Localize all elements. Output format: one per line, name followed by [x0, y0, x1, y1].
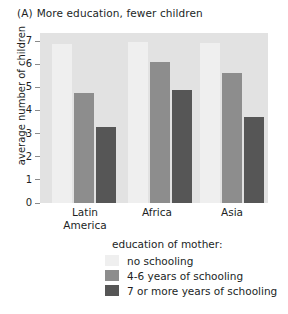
y-tick-0: 0 [26, 197, 40, 209]
chart-legend: education of mother: no schooling 4-6 ye… [105, 238, 288, 298]
plot-inner [40, 41, 268, 203]
y-tick-label: 2 [26, 152, 35, 162]
y-tick-label: 6 [26, 59, 35, 69]
y-tick-3: 3 [26, 128, 40, 140]
legend-swatch-icon [105, 285, 119, 296]
y-axis: average number of children 7 6 5 4 3 2 1… [0, 33, 40, 203]
legend-item-no-schooling: no schooling [105, 253, 288, 268]
bar-latin-america-7-or-more-years [96, 127, 116, 203]
chart-panel-tag: (A) [17, 7, 33, 19]
chart-title-text: More education, fewer children [37, 7, 203, 19]
bar-asia-7-or-more-years [244, 117, 264, 203]
bar-asia-no-schooling [200, 43, 220, 203]
y-tick-1: 1 [26, 174, 40, 186]
bar-africa-4-6-years [150, 62, 170, 203]
y-tick-label: 4 [26, 105, 35, 115]
bar-africa-no-schooling [128, 42, 148, 203]
legend-item-label: 7 or more years of schooling [127, 285, 277, 297]
y-tick-2: 2 [26, 151, 40, 163]
chart-title: (A)More education, fewer children [17, 7, 203, 19]
y-tick-label: 5 [26, 82, 35, 92]
bar-group-asia [200, 41, 266, 203]
y-tick-7: 7 [26, 35, 40, 47]
y-tick-5: 5 [26, 81, 40, 93]
y-tick-label: 3 [26, 129, 35, 139]
y-tick-4: 4 [26, 104, 40, 116]
legend-swatch-icon [105, 270, 119, 281]
legend-swatch-icon [105, 255, 119, 266]
y-tick-6: 6 [26, 58, 40, 70]
x-tick-label-line: Asia [187, 206, 277, 219]
legend-title: education of mother: [112, 238, 288, 250]
bar-group-latin-america [52, 41, 118, 203]
y-tick-label: 7 [26, 36, 35, 46]
bar-group-africa [128, 41, 194, 203]
bar-latin-america-4-6-years [74, 93, 94, 203]
bar-africa-7-or-more-years [172, 90, 192, 203]
legend-item-label: no schooling [127, 255, 193, 267]
bar-asia-4-6-years [222, 73, 242, 203]
legend-item-label: 4-6 years of schooling [127, 270, 243, 282]
legend-item-4-6-years: 4-6 years of schooling [105, 268, 288, 283]
x-axis: Latin America Africa Asia [40, 206, 268, 240]
bar-latin-america-no-schooling [52, 44, 72, 203]
plot-area [40, 33, 268, 203]
y-tick-label: 0 [26, 198, 35, 208]
legend-item-7-or-more-years: 7 or more years of schooling [105, 283, 288, 298]
x-tick-label-line: America [40, 219, 130, 232]
x-tick-label-asia: Asia [187, 206, 277, 219]
y-tick-label: 1 [26, 175, 35, 185]
